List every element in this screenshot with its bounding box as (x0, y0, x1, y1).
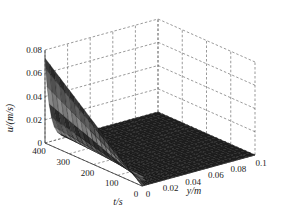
t-tick-label: 100 (105, 178, 119, 188)
z-axis-label: u/(m/s) (4, 103, 16, 132)
t-tick-label: 200 (81, 168, 95, 178)
t-axis-label: t/s (113, 196, 123, 207)
t-tick-label: 0 (134, 189, 139, 199)
z-tick-label: 0.02 (26, 115, 42, 125)
y-tick-label: 0.1 (255, 158, 266, 168)
y-tick-label: 0 (146, 189, 151, 199)
y-tick-label: 0.08 (231, 164, 247, 174)
y-tick-label: 0.02 (163, 183, 179, 193)
t-tick-label: 300 (57, 157, 71, 167)
z-tick-label: 0.06 (26, 68, 42, 78)
surface (45, 58, 255, 186)
z-tick-label: 0.04 (26, 92, 42, 102)
surface-plot: 00.020.040.060.08010020030040000.020.040… (0, 0, 281, 213)
y-tick-label: 0.06 (208, 170, 224, 180)
z-tick-label: 0.08 (26, 45, 42, 55)
t-tick-label: 400 (32, 146, 46, 156)
y-axis-label: y/m (186, 185, 201, 196)
